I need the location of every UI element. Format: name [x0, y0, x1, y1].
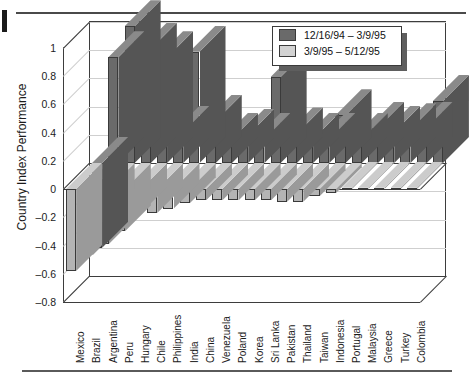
legend-label: 12/16/94 – 3/9/95: [304, 29, 386, 41]
bar-front-face: [407, 188, 417, 190]
x-tick-label: Korea: [254, 336, 265, 363]
x-tick-label: Thailand: [302, 325, 313, 363]
x-tick-label: Brazil: [91, 338, 102, 363]
bar-front-face: [326, 189, 336, 193]
y-tick-label: 1: [0, 43, 56, 53]
bar-front-face: [374, 188, 384, 190]
x-tick-label: Venezuela: [221, 316, 232, 363]
x-tick-label: Hungary: [140, 325, 151, 363]
x-tick-label: Sri Lanka: [270, 321, 281, 363]
legend-swatch: [279, 45, 296, 57]
x-tick-label: Philippines: [172, 315, 183, 363]
bar-front-face: [391, 188, 401, 190]
x-tick-label: Indonesia: [335, 320, 346, 363]
x-tick-label: Taiwan: [319, 332, 330, 363]
x-tick-label: Malaysia: [367, 324, 378, 363]
x-tick-label: India: [189, 341, 200, 363]
x-tick-label: Mexico: [75, 331, 86, 363]
y-tick-label: –0.8: [0, 297, 56, 307]
x-tick-label: Argentina: [108, 320, 119, 363]
x-tick-label: Colombia: [416, 321, 427, 363]
bar-front-face: [358, 188, 368, 190]
legend-entry: 3/9/95 – 5/12/95: [273, 43, 401, 59]
y-tick-label: –0.6: [0, 269, 56, 279]
bar-front-face: [342, 188, 352, 190]
y-axis-title: Country Index Performance: [15, 57, 29, 257]
x-tick-label: Poland: [237, 332, 248, 363]
legend-label: 3/9/95 – 5/12/95: [304, 45, 380, 57]
legend-swatch: [279, 29, 296, 41]
chart-legend: 12/16/94 – 3/9/953/9/95 – 5/12/95: [272, 26, 402, 66]
x-tick-label: Pakistan: [286, 325, 297, 363]
x-tick-label: Portugal: [351, 326, 362, 363]
legend-entry: 12/16/94 – 3/9/95: [273, 27, 401, 43]
bar-front-face: [66, 189, 76, 271]
x-tick-label: Chile: [156, 340, 167, 363]
x-tick-label: China: [205, 337, 216, 363]
x-tick-label: Turkey: [400, 333, 411, 363]
x-tick-label: Greece: [383, 330, 394, 363]
x-tick-label: Peru: [124, 342, 135, 363]
